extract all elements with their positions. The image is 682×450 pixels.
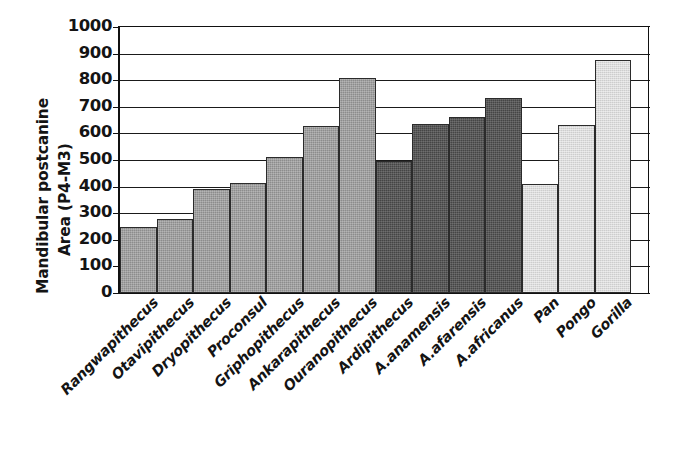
y-axis-tick-label: 1000 [60, 18, 112, 35]
y-axis-tick-label: 100 [60, 257, 112, 274]
y-axis-tick-label: 600 [60, 124, 112, 141]
y-axis-tick-mark [113, 240, 120, 241]
gridline [120, 54, 650, 55]
y-axis-tick-mark [113, 266, 120, 267]
y-axis-tick-label: 700 [60, 98, 112, 115]
y-axis-tick-label: 400 [60, 178, 112, 195]
y-axis-tick-mark [113, 187, 120, 188]
y-axis-tick-label: 300 [60, 204, 112, 221]
y-axis-tick-mark [113, 133, 120, 134]
y-axis-tick-mark [113, 107, 120, 108]
y-axis-tick-mark [113, 213, 120, 214]
y-axis-tick-label: 0 [60, 284, 112, 301]
y-axis-tick-mark [113, 27, 120, 28]
x-axis-tick-labels: RangwapithecusOtavipithecusDryopithecusP… [118, 292, 678, 450]
y-axis-tick-label: 900 [60, 45, 112, 62]
y-axis-tick-label: 500 [60, 151, 112, 168]
y-axis-title-line-1: Mandibular postcanine [34, 98, 52, 294]
plot-right-border [648, 27, 649, 293]
y-axis-tick-mark [113, 80, 120, 81]
bar-chart-figure: Mandibular postcanine Area (P4-M3) 10009… [0, 0, 682, 450]
y-axis-tick-labels: 10009008007006005004003002001000 [60, 0, 112, 310]
gridline [120, 80, 650, 81]
y-axis-tick-mark [113, 160, 120, 161]
y-axis-tick-mark [113, 54, 120, 55]
y-axis-title: Mandibular postcanine Area (P4-M3) [16, 18, 62, 298]
gridline [120, 107, 650, 108]
y-axis-tick-label: 200 [60, 231, 112, 248]
y-axis-tick-label: 800 [60, 71, 112, 88]
bar [120, 227, 157, 293]
